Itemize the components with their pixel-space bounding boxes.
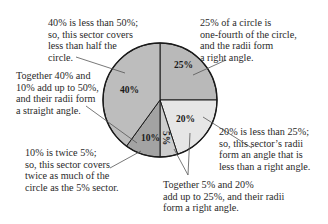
slice-label-40: 40% xyxy=(120,85,139,95)
annotation-straight-angle: Together 40% and 10% add up to 50%, and … xyxy=(16,70,99,116)
annotation-20-percent: 20% is less than 25%; so, this sector’s … xyxy=(219,126,310,172)
annotation-40-percent: 40% is less than 50%; so, this sector co… xyxy=(48,17,138,63)
annotation-25-percent: 25% of a circle is one-fourth of the cir… xyxy=(200,17,297,63)
pie-chart-figure: 25% 20% 5% 10% 40% 40% is less than 50%;… xyxy=(0,0,328,224)
slice-label-25: 25% xyxy=(174,60,193,70)
slice-label-10: 10% xyxy=(141,133,160,143)
slice-label-5: 5% xyxy=(161,131,171,145)
slice-label-20: 20% xyxy=(176,114,195,124)
annotation-10-percent: 10% is twice 5%; so, this sector covers … xyxy=(25,147,119,193)
annotation-5-and-20-percent: Together 5% and 20% add up to 25%, and t… xyxy=(163,179,284,214)
